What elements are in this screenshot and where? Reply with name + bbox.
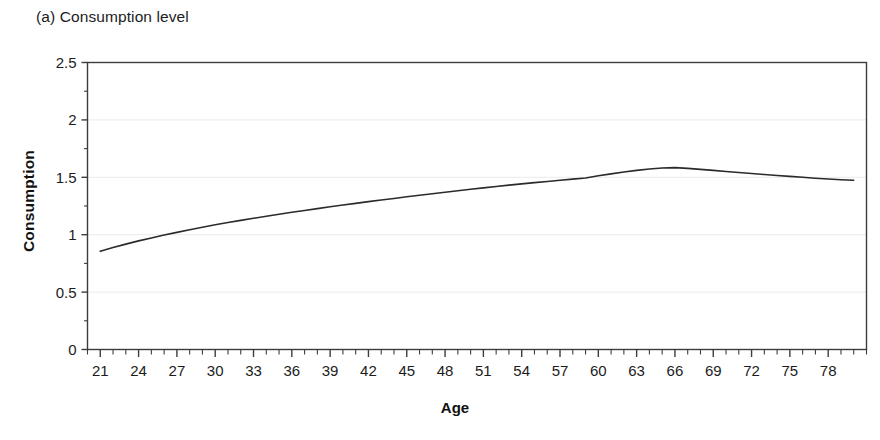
series-line — [100, 168, 853, 252]
chart-plot: 00.511.522.5 212427303336394245485154576… — [0, 0, 880, 440]
x-tick-label: 66 — [667, 362, 684, 379]
x-tick-label: 33 — [245, 362, 262, 379]
x-tick-label: 21 — [92, 362, 109, 379]
x-tick-label: 24 — [130, 362, 147, 379]
y-tick-label: 0.5 — [56, 284, 77, 301]
x-tick-label: 30 — [207, 362, 224, 379]
x-tick-label: 69 — [705, 362, 722, 379]
x-tick-label: 51 — [475, 362, 492, 379]
y-tick-label: 2.5 — [56, 54, 77, 71]
x-tick-label: 48 — [437, 362, 454, 379]
figure-container: (a) Consumption level Consumption Age 00… — [0, 0, 880, 440]
x-tick-label: 42 — [360, 362, 377, 379]
y-tick-label: 0 — [68, 341, 76, 358]
y-axis-ticks: 00.511.522.5 — [56, 54, 88, 358]
x-tick-label: 45 — [398, 362, 415, 379]
x-tick-label: 78 — [820, 362, 837, 379]
x-tick-label: 36 — [283, 362, 300, 379]
x-tick-label: 75 — [782, 362, 799, 379]
plot-border — [88, 63, 867, 350]
x-tick-label: 57 — [552, 362, 569, 379]
x-axis-ticks: 2124273033363942454851545760636669727578 — [88, 350, 867, 379]
data-series-layer — [100, 168, 853, 252]
y-tick-label: 2 — [68, 111, 76, 128]
x-tick-label: 63 — [628, 362, 645, 379]
y-tick-label: 1 — [68, 226, 76, 243]
gridlines — [88, 120, 867, 292]
x-tick-label: 60 — [590, 362, 607, 379]
x-tick-label: 54 — [513, 362, 530, 379]
x-tick-label: 72 — [743, 362, 760, 379]
x-tick-label: 39 — [322, 362, 339, 379]
y-tick-label: 1.5 — [56, 169, 77, 186]
plot-frame — [88, 63, 867, 350]
x-tick-label: 27 — [169, 362, 186, 379]
